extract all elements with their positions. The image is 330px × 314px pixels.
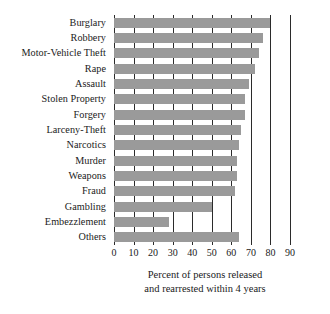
category-label: Fraud — [0, 184, 110, 199]
bar — [114, 79, 249, 89]
bar-row — [114, 138, 290, 153]
category-label: Motor-Vehicle Theft — [0, 46, 110, 61]
x-tick-label: 20 — [148, 246, 158, 260]
x-tick-label: 10 — [129, 246, 139, 260]
bar-row — [114, 168, 290, 183]
bar-row — [114, 30, 290, 45]
bar — [114, 202, 212, 212]
category-label: Narcotics — [0, 138, 110, 153]
bar — [114, 156, 237, 166]
bar-row — [114, 107, 290, 122]
category-label: Burglary — [0, 15, 110, 30]
bar-row — [114, 122, 290, 137]
bar — [114, 18, 270, 28]
category-label: Others — [0, 230, 110, 245]
x-tick-label: 60 — [226, 246, 236, 260]
bar — [114, 186, 235, 196]
x-tick-label: 80 — [265, 246, 275, 260]
bar — [114, 94, 245, 104]
category-label: Robbery — [0, 30, 110, 45]
category-label: Gambling — [0, 199, 110, 214]
category-label: Larceny-Theft — [0, 122, 110, 137]
bar — [114, 217, 169, 227]
bar — [114, 125, 241, 135]
gridline — [290, 15, 291, 245]
x-tick-label: 0 — [112, 246, 117, 260]
bar — [114, 64, 255, 74]
x-axis-label-line-1: Percent of persons released — [90, 268, 320, 282]
bar-series — [114, 15, 290, 245]
category-label: Rape — [0, 61, 110, 76]
category-label: Stolen Property — [0, 92, 110, 107]
category-label: Forgery — [0, 107, 110, 122]
bar — [114, 48, 259, 58]
x-axis-ticks: 0102030405060708090 — [114, 246, 290, 262]
bar — [114, 33, 263, 43]
bar — [114, 232, 239, 242]
bar-row — [114, 76, 290, 91]
x-axis-label-line-2: and rearrested within 4 years — [90, 282, 320, 296]
bar-row — [114, 61, 290, 76]
bar-row — [114, 92, 290, 107]
x-tick-label: 30 — [168, 246, 178, 260]
bar-chart: BurglaryRobberyMotor-Vehicle TheftRapeAs… — [0, 0, 330, 314]
x-tick-label: 50 — [207, 246, 217, 260]
bar-row — [114, 214, 290, 229]
x-tick-label: 70 — [246, 246, 256, 260]
bar — [114, 171, 237, 181]
bar-row — [114, 153, 290, 168]
category-label: Murder — [0, 153, 110, 168]
bar-row — [114, 15, 290, 30]
bar-row — [114, 46, 290, 61]
bar — [114, 110, 245, 120]
bar-row — [114, 184, 290, 199]
category-label: Assault — [0, 76, 110, 91]
category-label: Embezzlement — [0, 214, 110, 229]
plot-area — [114, 15, 290, 245]
bar — [114, 140, 239, 150]
bar-row — [114, 199, 290, 214]
x-tick-label: 40 — [187, 246, 197, 260]
category-label: Weapons — [0, 168, 110, 183]
bar-row — [114, 230, 290, 245]
x-tick-label: 90 — [285, 246, 295, 260]
category-axis-labels: BurglaryRobberyMotor-Vehicle TheftRapeAs… — [0, 15, 110, 245]
x-axis-label: Percent of persons released and rearrest… — [90, 268, 320, 296]
